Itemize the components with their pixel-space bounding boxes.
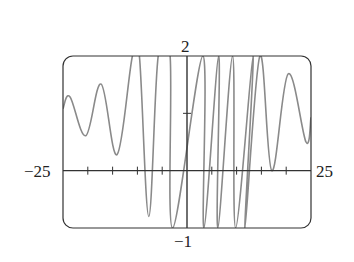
- chart-svg: [0, 0, 354, 262]
- y-min-label: −1: [174, 233, 192, 250]
- axes: [63, 56, 311, 228]
- x-max-label: 25: [316, 163, 333, 180]
- y-max-label: 2: [181, 38, 190, 55]
- x-min-label: −25: [24, 163, 51, 180]
